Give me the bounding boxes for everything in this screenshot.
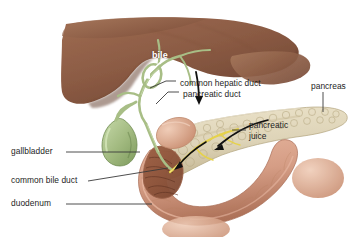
anatomy-figure: bile common hepatic duct pancreatic duct…	[0, 0, 362, 237]
label-pancreatic-duct: pancreatic duct	[183, 89, 241, 100]
label-pancreatic-juice: pancreatic juice	[249, 120, 305, 141]
label-pancreas: pancreas	[311, 81, 346, 92]
label-bile: bile	[152, 50, 168, 61]
label-common-bile-duct: common bile duct	[11, 175, 77, 186]
label-duodenum: duodenum	[11, 198, 51, 209]
label-gallbladder: gallbladder	[11, 146, 53, 157]
anatomy-illustration	[0, 0, 362, 237]
leader-pancreatic-duct	[156, 92, 179, 104]
label-common-hepatic-duct: common hepatic duct	[180, 78, 261, 89]
